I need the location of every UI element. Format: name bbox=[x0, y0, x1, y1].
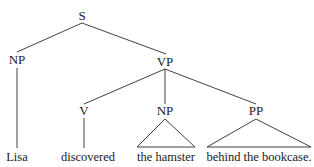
leaf-discovered: discovered bbox=[61, 150, 116, 164]
edge-vp-to-v bbox=[84, 69, 165, 104]
edge-s-to-vp bbox=[82, 23, 166, 54]
node-s: S bbox=[78, 8, 85, 23]
leaf-behind-the-bookcase: behind the bookcase. bbox=[206, 150, 311, 164]
node-np-object: NP bbox=[157, 103, 174, 118]
branch-lines bbox=[17, 23, 256, 148]
leaf-labels: Lisa discovered the hamster behind the b… bbox=[6, 150, 311, 164]
node-labels: S NP VP V NP PP bbox=[9, 8, 264, 118]
leaf-the-hamster: the hamster bbox=[137, 150, 196, 164]
node-vp: VP bbox=[157, 54, 174, 69]
pp-triangle bbox=[207, 119, 311, 147]
edge-s-to-np bbox=[17, 23, 82, 52]
node-pp: PP bbox=[249, 103, 263, 118]
syntax-tree-diagram: S NP VP V NP PP Lisa discovered the hams… bbox=[0, 0, 314, 167]
node-np-subject: NP bbox=[9, 52, 26, 67]
tree-canvas: S NP VP V NP PP Lisa discovered the hams… bbox=[0, 0, 314, 167]
edge-vp-to-pp bbox=[165, 69, 256, 104]
phrase-triangles bbox=[137, 119, 311, 147]
np-object-triangle bbox=[137, 119, 195, 147]
leaf-lisa: Lisa bbox=[6, 150, 28, 164]
node-v: V bbox=[79, 103, 89, 118]
